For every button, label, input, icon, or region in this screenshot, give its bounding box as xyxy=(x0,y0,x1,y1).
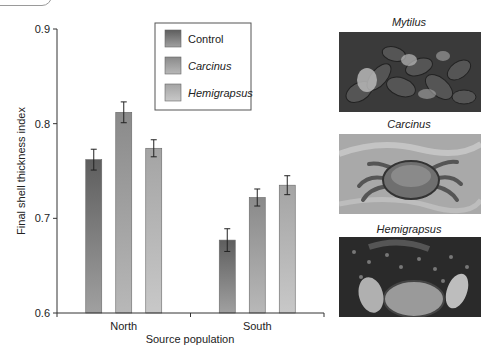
photo-title-hemigrapsus: Hemigrapsus xyxy=(335,223,483,235)
x-tick-label: South xyxy=(243,320,272,332)
y-tick-label: 0.7 xyxy=(35,212,50,224)
legend-label-control: Control xyxy=(188,33,223,45)
legend-label-hemigrapsus: Hemigrapsus xyxy=(188,87,253,99)
x-axis-label: Source population xyxy=(146,333,235,345)
bar-south-hemigrapsus xyxy=(279,185,295,313)
x-tick-label: North xyxy=(110,320,137,332)
bar-north-hemigrapsus xyxy=(146,148,162,313)
carcinus-photo xyxy=(339,134,481,214)
y-tick-label: 0.9 xyxy=(35,23,50,35)
y-tick-label: 0.8 xyxy=(35,118,50,130)
y-axis-label: Final shell thickness index xyxy=(15,107,27,235)
legend-label-carcinus: Carcinus xyxy=(188,60,232,72)
y-tick-label: 0.6 xyxy=(35,307,50,319)
photo-title-carcinus: Carcinus xyxy=(335,118,483,130)
legend-swatch-carcinus xyxy=(165,57,181,74)
bar-chart: 0.60.70.80.9NorthSouth Source population… xyxy=(0,0,330,358)
photo-title-mytilus: Mytilus xyxy=(335,16,483,28)
bar-north-carcinus xyxy=(116,112,132,313)
hemigrapsus-photo xyxy=(339,237,481,317)
bar-south-carcinus xyxy=(249,198,265,313)
legend: ControlCarcinusHemigrapsus xyxy=(155,23,253,110)
legend-swatch-hemigrapsus xyxy=(165,84,181,101)
bar-north-control xyxy=(86,160,102,313)
legend-swatch-control xyxy=(165,30,181,47)
mytilus-photo xyxy=(339,32,481,112)
